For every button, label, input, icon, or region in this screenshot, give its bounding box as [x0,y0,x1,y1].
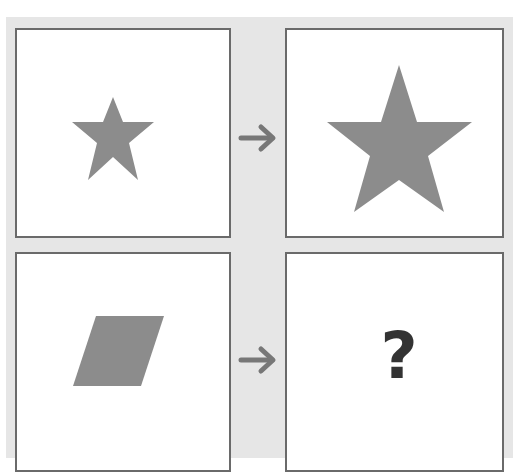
right-arrow-icon [241,349,273,371]
large-star-icon [327,65,472,212]
question-mark: ? [372,318,426,394]
parallelogram-icon [73,316,164,386]
right-arrow-icon [241,127,273,149]
small-star-icon [72,97,154,180]
